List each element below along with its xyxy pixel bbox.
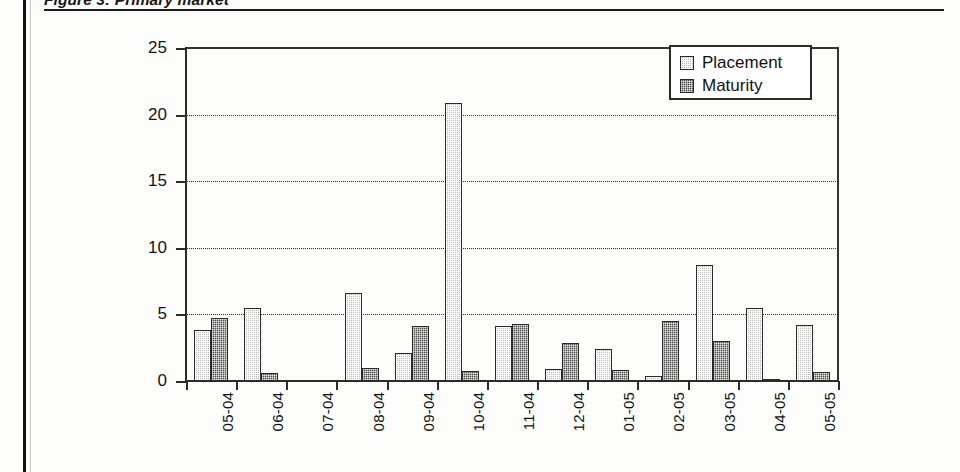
- y-axis-tick-label: 0: [107, 371, 167, 391]
- chart-legend: Placement Maturity: [669, 45, 812, 100]
- bar-maturity-08-04: [362, 368, 379, 381]
- x-axis-tick-label: 11-04: [520, 392, 537, 430]
- x-axis-tick: [587, 381, 589, 390]
- bar-maturity-06-04: [261, 373, 278, 381]
- bar-maturity-01-05: [612, 370, 629, 381]
- bar-chart: 0510152025 05-0406-0407-0408-0409-0410-0…: [0, 0, 960, 472]
- x-axis-tick-label: 10-04: [470, 392, 487, 431]
- x-axis-tick: [537, 381, 539, 390]
- x-axis-tick-label: 03-05: [721, 392, 738, 431]
- bar-placement-01-05: [595, 349, 612, 381]
- bar-maturity-03-05: [713, 341, 730, 381]
- bar-maturity-05-05: [813, 372, 830, 381]
- bar-placement-08-04: [345, 293, 362, 381]
- x-axis-tick: [738, 381, 740, 390]
- bar-placement-10-04: [445, 103, 462, 381]
- bar-maturity-02-05: [662, 321, 679, 381]
- legend-item-placement: Placement: [680, 51, 810, 74]
- bar-placement-05-04: [194, 330, 211, 381]
- x-axis-tick: [286, 381, 288, 390]
- y-axis-tick-label: 20: [107, 105, 167, 125]
- x-axis-tick-label: 01-05: [620, 392, 637, 431]
- y-axis-tick-label: 15: [107, 171, 167, 191]
- legend-swatch-placement-icon: [680, 56, 694, 70]
- legend-item-maturity: Maturity: [680, 74, 810, 97]
- x-axis-tick-label: 08-04: [370, 392, 387, 431]
- x-axis-tick-label: 07-04: [319, 392, 336, 431]
- x-axis-tick: [637, 381, 639, 390]
- scanned-page: Figure 3: Primary market 0510152025 05-0…: [0, 0, 960, 472]
- legend-label-maturity: Maturity: [702, 77, 762, 94]
- x-axis-tick-label: 02-05: [670, 392, 687, 431]
- x-axis-tick-label: 05-04: [219, 392, 236, 431]
- bar-placement-09-04: [395, 353, 412, 381]
- legend-label-placement: Placement: [702, 54, 782, 71]
- y-axis-tick-label: 25: [107, 38, 167, 58]
- x-axis-tick: [236, 381, 238, 390]
- bar-maturity-05-04: [211, 318, 228, 381]
- x-axis-tick: [336, 381, 338, 390]
- x-axis-tick-label: 09-04: [420, 392, 437, 431]
- bar-placement-05-05: [796, 325, 813, 381]
- x-axis-tick: [688, 381, 690, 390]
- bar-placement-11-04: [495, 326, 512, 381]
- y-axis-tick-label: 10: [107, 238, 167, 258]
- x-axis-tick-label: 05-05: [821, 392, 838, 431]
- bar-maturity-12-04: [562, 343, 579, 381]
- bar-maturity-04-05: [763, 379, 780, 381]
- bar-maturity-11-04: [512, 324, 529, 381]
- x-axis-tick: [437, 381, 439, 390]
- x-axis-tick-label: 04-05: [771, 392, 788, 431]
- bar-placement-06-04: [244, 308, 261, 381]
- bar-placement-04-05: [746, 308, 763, 381]
- bar-maturity-10-04: [462, 371, 479, 381]
- x-axis-tick: [387, 381, 389, 390]
- x-axis-tick-label: 06-04: [269, 392, 286, 431]
- x-axis-tick: [788, 381, 790, 390]
- x-axis-tick-label: 12-04: [570, 392, 587, 431]
- bar-placement-12-04: [545, 369, 562, 381]
- legend-swatch-maturity-icon: [680, 79, 694, 93]
- bar-maturity-09-04: [412, 326, 429, 381]
- bar-placement-03-05: [696, 265, 713, 381]
- y-axis-tick-label: 5: [107, 304, 167, 324]
- bar-placement-02-05: [645, 376, 662, 381]
- x-axis-tick: [186, 381, 188, 390]
- x-axis-tick: [487, 381, 489, 390]
- x-axis-tick: [838, 381, 840, 390]
